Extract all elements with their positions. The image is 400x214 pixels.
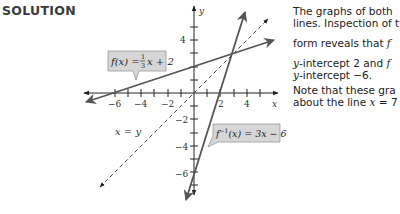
text-line-6: Note that these gra bbox=[293, 84, 400, 96]
f-label-num: 1 bbox=[141, 53, 145, 61]
tick-y-m2: −2 bbox=[175, 115, 188, 125]
tick-x-2: 2 bbox=[218, 99, 224, 109]
tick-x-m4: −4 bbox=[134, 99, 148, 109]
f-label-left: f(x) = bbox=[110, 56, 140, 67]
tick-x-m2: −2 bbox=[161, 99, 174, 109]
tick-y-m4: −4 bbox=[175, 142, 189, 152]
tick-y-4: 4 bbox=[180, 35, 186, 45]
function-graph: −6 −4 −2 2 4 4 −2 −4 −6 x y f(x) = 1 3 x… bbox=[0, 0, 290, 214]
text-line-4: y-intercept 2 and f bbox=[293, 57, 400, 69]
text-line-7: about the line x = 7 bbox=[293, 96, 400, 108]
finv-label-rest: (x) = 3x − 6 bbox=[228, 128, 286, 139]
tick-x-m6: −6 bbox=[108, 99, 122, 109]
label-x-equals-y: x = y bbox=[115, 126, 141, 137]
f-label-den: 3 bbox=[141, 62, 145, 70]
explanation-text: The graphs of both lines. Inspection of … bbox=[293, 5, 400, 108]
finv-label-sup: −1 bbox=[220, 127, 229, 134]
x-axis-label: x bbox=[272, 99, 277, 109]
text-line-3: form reveals that f bbox=[293, 37, 400, 49]
text-line-1: The graphs of both bbox=[293, 5, 400, 17]
tick-x-4: 4 bbox=[244, 99, 250, 109]
tick-y-m6: −6 bbox=[175, 169, 189, 179]
y-axis-label: y bbox=[198, 6, 205, 16]
svg-text:f(x) =: f(x) = bbox=[110, 56, 140, 67]
text-line-5: y-intercept −6. bbox=[293, 69, 400, 81]
f-label-right: x + 2 bbox=[147, 56, 174, 67]
text-line-2: lines. Inspection of t bbox=[293, 17, 400, 29]
callout-f-inverse: f−1(x) = 3x − 6 bbox=[208, 124, 287, 147]
